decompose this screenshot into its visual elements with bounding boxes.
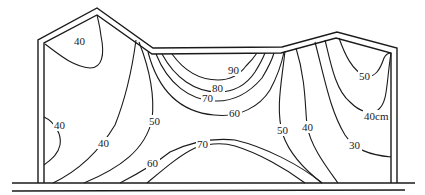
label-50-right: 50 — [277, 124, 289, 136]
label-40cm-farright: 40cm — [364, 110, 389, 122]
label-70-bottom: 70 — [197, 138, 209, 150]
label-70-center: 70 — [202, 92, 214, 104]
label-50-left: 50 — [149, 115, 161, 127]
contour-lines — [44, 15, 391, 183]
ground-lines — [12, 183, 415, 191]
label-40-topleft: 40 — [74, 35, 86, 47]
label-90-center: 90 — [228, 64, 240, 76]
label-60-bottom: 60 — [147, 157, 159, 169]
label-40-lowerleft: 40 — [98, 137, 110, 149]
contour-diagram: 40 40 40 50 60 70 90 80 70 60 50 40 50 4… — [0, 0, 425, 195]
contour-50-left — [84, 42, 153, 183]
inner-wall — [44, 15, 391, 183]
label-40-right: 40 — [302, 121, 314, 133]
contour-70-bottom — [147, 144, 305, 183]
label-30-right: 30 — [349, 139, 361, 151]
contour-90-center — [172, 53, 257, 80]
label-50-farright: 50 — [359, 70, 371, 82]
ground-line-lower — [12, 190, 405, 191]
building-outline — [38, 8, 397, 183]
outer-wall — [38, 8, 397, 183]
label-40-leftwall: 40 — [54, 119, 66, 131]
label-60-center: 60 — [229, 107, 241, 119]
contour-50-right — [279, 51, 322, 183]
contour-labels: 40 40 40 50 60 70 90 80 70 60 50 40 50 4… — [53, 35, 389, 169]
